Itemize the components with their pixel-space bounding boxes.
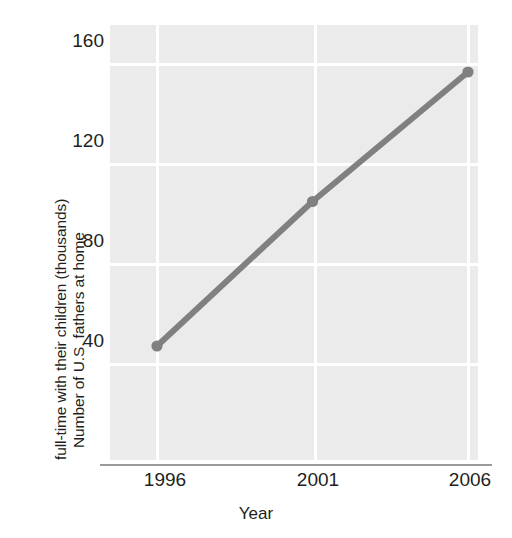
gridline-vertical bbox=[314, 25, 317, 460]
x-axis-title: Year bbox=[0, 504, 512, 524]
x-tick-label-1996: 1996 bbox=[120, 470, 210, 489]
x-tick-label-2001: 2001 bbox=[273, 470, 363, 489]
gridline-horizontal bbox=[110, 263, 478, 266]
gridline-vertical bbox=[467, 25, 470, 460]
x-axis-line bbox=[100, 464, 492, 466]
gridline-horizontal bbox=[110, 63, 478, 66]
gridline-vertical bbox=[156, 25, 159, 460]
y-tick-label-120: 120 bbox=[58, 131, 104, 150]
y-tick-label-80: 80 bbox=[58, 231, 104, 250]
x-tick-label-2006: 2006 bbox=[425, 470, 512, 489]
y-tick-label-160: 160 bbox=[58, 31, 104, 50]
y-tick-label-40: 40 bbox=[58, 331, 104, 350]
plot-area bbox=[110, 25, 478, 460]
chart-figure: Number of U.S. fathers at home full-time… bbox=[0, 0, 512, 538]
gridline-horizontal bbox=[110, 363, 478, 366]
gridline-horizontal bbox=[110, 163, 478, 166]
